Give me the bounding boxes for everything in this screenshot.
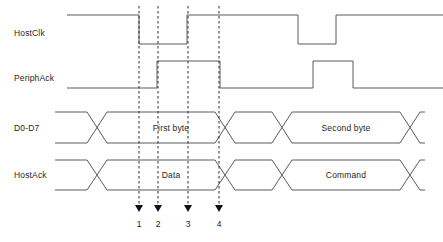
marker-2-arrowhead <box>154 205 162 212</box>
marker-2-label: 2 <box>156 219 161 229</box>
waveform-periphack <box>67 61 443 88</box>
waveform-hostack-lower-trace <box>55 160 425 190</box>
marker-4-arrowhead <box>215 205 223 212</box>
marker-2: 2 <box>154 6 162 229</box>
signal-label-periphack: PeriphAck <box>14 73 55 83</box>
signal-label-d0-d7: D0-D7 <box>14 123 39 133</box>
marker-4: 4 <box>215 6 223 229</box>
waveform-hostack <box>55 160 425 190</box>
timing-diagram-canvas: HostClk PeriphAck D0-D7 HostAck First by… <box>0 0 443 242</box>
marker-1-arrowhead <box>135 205 143 212</box>
marker-4-label: 4 <box>217 219 222 229</box>
bus-value-hostack-command: Command <box>326 170 366 180</box>
marker-3-arrowhead <box>184 205 192 212</box>
timing-diagram: HostClk PeriphAck D0-D7 HostAck First by… <box>0 0 443 242</box>
bus-value-d0-d7-second: Second byte <box>322 123 371 133</box>
marker-3-label: 3 <box>186 219 191 229</box>
marker-3: 3 <box>184 6 192 229</box>
waveform-hostack-upper-trace <box>55 160 425 190</box>
signal-label-hostack: HostAck <box>14 170 47 180</box>
marker-1-label: 1 <box>137 219 142 229</box>
bus-value-hostack-data: Data <box>162 170 181 180</box>
signal-label-hostclk: HostClk <box>14 28 45 38</box>
waveform-hostclk <box>67 15 443 44</box>
